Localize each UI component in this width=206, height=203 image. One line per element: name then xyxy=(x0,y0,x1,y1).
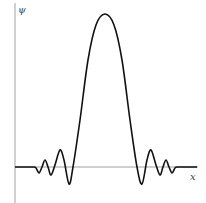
y-axis-label: ψ xyxy=(18,4,26,15)
wavefunction-curve xyxy=(15,14,197,184)
x-axis-label: x xyxy=(190,171,196,182)
wavefunction-chart: ψ x xyxy=(0,0,206,203)
